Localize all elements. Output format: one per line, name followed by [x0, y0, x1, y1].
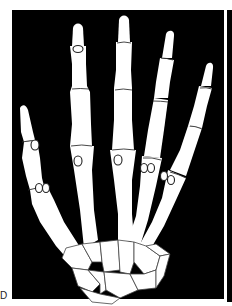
carpal-bones [62, 240, 170, 304]
index-finger-bones [70, 24, 98, 249]
middle-finger-bones [110, 16, 136, 245]
hand-skeleton [0, 0, 232, 306]
